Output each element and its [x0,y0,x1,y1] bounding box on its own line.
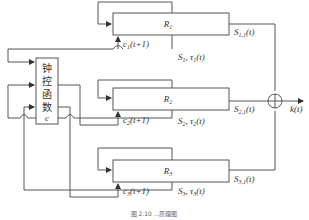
figure-caption: 图 2.10 ...原理图 [131,210,178,218]
controller-char-2: 控 [42,75,52,87]
r3-input-wire [58,107,118,197]
controller-char-1: 钟 [42,62,52,74]
c2-input-label: c2(t+1) [123,115,149,126]
controller-symbol: c [45,113,49,123]
r2-input-wire [58,85,118,125]
controller-char-4: 数 [42,101,52,113]
s3-tau3-label: S3, τ3(t) [178,186,205,197]
r1-input-wire [58,46,123,50]
s31-output-label: S3,1(t) [234,174,255,185]
c1-input-label: c1(t+1) [123,39,149,50]
s21-output-label: S2,1(t) [234,104,255,115]
controller-char-3: 函 [42,89,52,100]
s2-tau2-label: S2, τ2(t) [178,116,205,127]
c3-input-label: c3(t+1) [123,186,149,197]
block-r1-group [58,2,275,91]
s1-tau1-label: S1, τ1(t) [178,52,205,63]
summing-group: k(t) [268,94,303,114]
feedback-s1-wire [8,49,34,62]
diagram-canvas: 钟 控 函 数 c k(t) R1 R2 R3 c1(t+1) c2(t+1) … [0,0,309,220]
s11-output-label: S1,1(t) [234,27,255,38]
r3-output-wire [229,111,275,170]
output-label: k(t) [290,104,303,114]
controller-group: 钟 控 函 数 c [36,58,58,124]
